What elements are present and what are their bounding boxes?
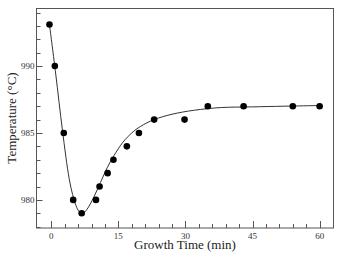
data-point bbox=[205, 103, 212, 110]
data-point bbox=[70, 197, 77, 204]
data-point bbox=[240, 103, 247, 110]
x-tick-label: 15 bbox=[114, 231, 124, 241]
data-point bbox=[104, 170, 111, 177]
y-axis-label: Temperature (°C) bbox=[4, 72, 19, 163]
data-point bbox=[110, 156, 117, 163]
data-point bbox=[151, 116, 158, 123]
data-point bbox=[136, 130, 143, 137]
y-tick-label: 985 bbox=[21, 128, 35, 138]
data-point bbox=[46, 21, 53, 28]
data-point bbox=[60, 130, 67, 137]
chart: 980985990 015304560 Growth Time (min) Te… bbox=[0, 0, 342, 261]
x-tick-label: 45 bbox=[248, 231, 258, 241]
x-tick-label: 0 bbox=[49, 231, 54, 241]
y-axis-ticks: 980985990 bbox=[21, 14, 43, 228]
data-point bbox=[93, 197, 100, 204]
data-points bbox=[46, 21, 323, 216]
data-point bbox=[289, 103, 296, 110]
x-tick-label: 60 bbox=[315, 231, 325, 241]
data-point bbox=[96, 183, 103, 190]
data-point bbox=[78, 210, 85, 217]
data-point bbox=[52, 63, 59, 70]
data-point bbox=[316, 103, 323, 110]
x-axis-label: Growth Time (min) bbox=[134, 237, 236, 252]
y-tick-label: 990 bbox=[21, 61, 35, 71]
data-point bbox=[124, 143, 131, 150]
y-tick-label: 980 bbox=[21, 195, 35, 205]
data-point bbox=[181, 116, 188, 123]
